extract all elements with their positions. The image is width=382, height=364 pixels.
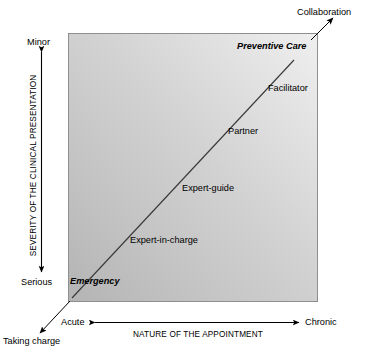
continuum-label-facilitator: Facilitator <box>268 83 308 94</box>
figure-canvas: Minor Serious SEVERITY OF THE CLINICAL P… <box>0 0 382 364</box>
continuum-label-expert-in-charge: Expert-in-charge <box>130 235 198 246</box>
x-axis-right-label: Chronic <box>305 317 337 328</box>
continuum-label-emergency: Emergency <box>70 276 120 287</box>
y-axis-bottom-label: Serious <box>21 277 52 288</box>
continuum-label-preventive-care: Preventive Care <box>237 41 306 52</box>
x-axis-left-label: Acute <box>61 317 85 328</box>
continuum-label-partner: Partner <box>228 126 258 137</box>
annotation-collaboration: Collaboration <box>297 7 351 18</box>
y-axis-title: SEVERITY OF THE CLINICAL PRESENTATION <box>28 71 39 261</box>
plot-area <box>68 33 318 302</box>
y-axis-top-label: Minor <box>27 37 50 48</box>
x-axis-title: NATURE OF THE APPOINTMENT <box>98 329 298 340</box>
continuum-label-expert-guide: Expert-guide <box>182 183 234 194</box>
annotation-taking-charge: Taking charge <box>3 336 60 347</box>
